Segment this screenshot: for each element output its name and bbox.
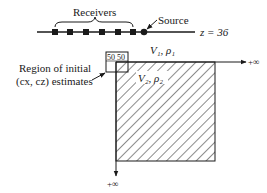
surface-depth-label: z = 36: [199, 26, 229, 38]
diagram-svg: Receivers Source z = 36 V₁, ρ₁ V₂, ρ₂ +∞…: [0, 0, 267, 193]
source-label: Source: [158, 14, 189, 26]
layer2-label: V₂, ρ₂: [138, 72, 163, 84]
region-annotation-line1: Region of initial: [19, 62, 91, 74]
receiver-marker: [83, 29, 89, 35]
initial-estimate-label: 50 50: [107, 53, 125, 62]
receiver-marker: [52, 29, 58, 35]
diagram-canvas: Receivers Source z = 36 V₁, ρ₁ V₂, ρ₂ +∞…: [0, 0, 267, 193]
layer1-label: V₁, ρ₁: [150, 44, 175, 56]
region-annotation-line2: (cx, cz) estimates: [16, 75, 93, 88]
z-axis-infinity-label: +∞: [107, 179, 119, 189]
receivers-label: Receivers: [73, 6, 116, 18]
receiver-marker: [67, 29, 73, 35]
region-pointer-arrow: [92, 73, 105, 80]
source-marker: [141, 29, 148, 36]
receivers-brace: [55, 17, 133, 27]
receiver-marker: [115, 29, 121, 35]
receiver-marker: [130, 29, 136, 35]
source-pointer-arrow: [147, 20, 157, 29]
receiver-marker: [99, 29, 105, 35]
x-axis-infinity-label: +∞: [248, 57, 260, 67]
